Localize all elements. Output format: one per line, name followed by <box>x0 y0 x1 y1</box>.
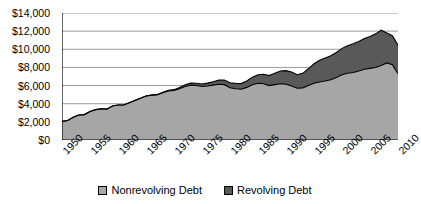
area-nonrevolving-debt <box>62 63 398 140</box>
y-axis-tick-label: $14,000 <box>12 8 50 18</box>
y-axis-tick-label: $8,000 <box>18 62 50 72</box>
legend-swatch-icon <box>98 186 107 195</box>
chart-legend: Nonrevolving DebtRevolving Debt <box>0 181 410 199</box>
x-axis-labels: 1950195519601965197019751980198519901995… <box>0 140 410 180</box>
legend-item[interactable]: Revolving Debt <box>224 184 312 196</box>
y-axis-tick-label: $2,000 <box>18 117 50 127</box>
y-axis-tick-label: $12,000 <box>12 26 50 36</box>
legend-swatch-icon <box>224 186 233 195</box>
legend-label: Revolving Debt <box>237 184 312 196</box>
plot-area <box>62 13 398 140</box>
legend-item[interactable]: Nonrevolving Debt <box>98 184 202 196</box>
x-axis-tick-label: 2010 <box>396 131 421 156</box>
y-axis-tick-label: $4,000 <box>18 99 50 109</box>
y-axis-tick-label: $10,000 <box>12 44 50 54</box>
y-axis-tick-label: $6,000 <box>18 81 50 91</box>
legend-label: Nonrevolving Debt <box>111 184 202 196</box>
plot-svg <box>62 13 398 140</box>
